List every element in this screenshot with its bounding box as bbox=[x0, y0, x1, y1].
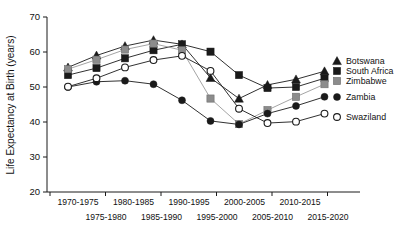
data-point bbox=[236, 121, 243, 128]
x-tick-label-upper: 2010-2015 bbox=[279, 197, 320, 207]
markers-botswana bbox=[64, 36, 329, 102]
x-axis bbox=[47, 192, 360, 196]
legend-item-zimbabwe[interactable]: Zimbabwe bbox=[333, 76, 386, 86]
legend-item-swaziland[interactable]: Swaziland bbox=[334, 112, 387, 122]
series-botswana bbox=[68, 40, 325, 98]
chart-legend: BotswanaSouth AfricaZimbabweZambiaSwazil… bbox=[333, 56, 394, 122]
data-point bbox=[321, 110, 328, 117]
data-point bbox=[292, 93, 299, 100]
series-zimbabwe bbox=[68, 44, 325, 125]
series-layer bbox=[64, 36, 329, 128]
data-point bbox=[264, 84, 271, 91]
x-tick-label-upper: 1980-1985 bbox=[113, 197, 154, 207]
data-point bbox=[93, 56, 100, 63]
data-point bbox=[292, 83, 299, 90]
y-tick-label: 60 bbox=[29, 46, 40, 57]
y-tick-label: 30 bbox=[29, 151, 40, 162]
data-point bbox=[207, 95, 214, 102]
legend-marker-filled-triangle bbox=[333, 57, 342, 65]
data-point bbox=[321, 93, 328, 100]
data-point bbox=[93, 65, 100, 72]
series-line bbox=[68, 44, 325, 125]
series-line bbox=[68, 56, 325, 123]
data-point bbox=[320, 67, 329, 75]
data-point bbox=[150, 47, 157, 54]
y-tick-label: 40 bbox=[29, 116, 40, 127]
x-tick-group bbox=[50, 192, 328, 196]
series-swaziland bbox=[68, 56, 325, 123]
data-point bbox=[179, 52, 186, 59]
data-point bbox=[235, 94, 244, 102]
legend-label: Zimbabwe bbox=[346, 76, 387, 86]
data-point bbox=[122, 64, 129, 71]
x-tick-label-upper: 2000-2005 bbox=[224, 197, 265, 207]
life-expectancy-line-chart: Life Expectancy at Birth (years) 2030405… bbox=[0, 0, 405, 232]
data-point bbox=[236, 105, 243, 112]
legend-label: Swaziland bbox=[346, 112, 386, 122]
data-point bbox=[150, 40, 157, 47]
x-tick-label-lower: 1975-1980 bbox=[85, 212, 126, 222]
x-tick-label-lower: 1985-1990 bbox=[141, 212, 182, 222]
data-point bbox=[150, 57, 157, 64]
legend-marker-filled-circle bbox=[334, 94, 341, 101]
data-point bbox=[264, 120, 271, 127]
data-point bbox=[264, 110, 271, 117]
y-tick-label: 20 bbox=[29, 186, 40, 197]
data-point bbox=[207, 48, 214, 55]
legend-marker-filled-square bbox=[333, 67, 340, 74]
y-tick-label: 70 bbox=[29, 11, 40, 22]
data-point bbox=[292, 75, 301, 83]
data-point bbox=[64, 66, 71, 73]
legend-marker-open-circle bbox=[334, 114, 341, 121]
data-point bbox=[293, 118, 300, 125]
x-tick-label-lower: 1995-2000 bbox=[196, 212, 237, 222]
x-tick-label-lower: 2005-2010 bbox=[252, 212, 293, 222]
legend-marker-gray-square bbox=[333, 77, 340, 84]
y-tick-group bbox=[43, 17, 47, 192]
legend-item-zambia[interactable]: Zambia bbox=[334, 92, 376, 102]
x-tick-label-upper: 1970-1975 bbox=[57, 197, 98, 207]
data-point bbox=[179, 97, 186, 104]
x-tick-labels: 1970-19751980-19851990-19952000-20052010… bbox=[57, 197, 348, 222]
legend-item-botswana[interactable]: Botswana bbox=[333, 56, 385, 66]
legend-item-south-africa[interactable]: South Africa bbox=[333, 66, 393, 76]
data-point bbox=[122, 77, 129, 84]
x-tick-label-upper: 1990-1995 bbox=[168, 197, 209, 207]
data-point bbox=[293, 102, 300, 109]
legend-label: South Africa bbox=[346, 66, 394, 76]
data-point bbox=[93, 75, 100, 82]
chart-container: Life Expectancy at Birth (years) 2030405… bbox=[0, 0, 405, 232]
markers-zambia bbox=[65, 77, 329, 128]
y-axis-title: Life Expectancy at Birth (years) bbox=[5, 36, 16, 175]
y-axis bbox=[43, 17, 47, 192]
series-line bbox=[68, 40, 325, 98]
data-point bbox=[207, 117, 214, 124]
data-point bbox=[235, 72, 242, 79]
legend-label: Botswana bbox=[346, 56, 385, 66]
data-point bbox=[121, 55, 128, 62]
data-point bbox=[207, 68, 214, 75]
y-tick-labels: 203040506070 bbox=[29, 11, 40, 197]
x-tick-label-lower: 2015-2020 bbox=[307, 212, 348, 222]
data-point bbox=[121, 46, 128, 53]
legend-label: Zambia bbox=[346, 92, 375, 102]
y-tick-label: 50 bbox=[29, 81, 40, 92]
data-point bbox=[321, 81, 328, 88]
data-point bbox=[150, 81, 157, 88]
data-point bbox=[65, 83, 72, 90]
